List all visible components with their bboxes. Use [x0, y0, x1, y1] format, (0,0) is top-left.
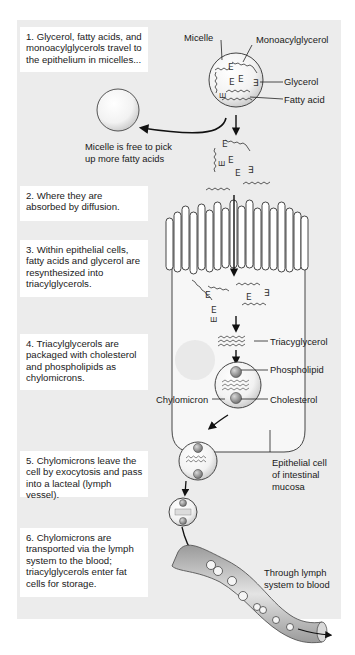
svg-text:ш: ш — [219, 91, 226, 100]
svg-text:E: E — [246, 292, 252, 302]
monoacylglycerol-label: Monoacylglycerol — [256, 34, 328, 45]
step-3-text: 3. Within epithelial cells, fatty acids … — [26, 244, 140, 289]
glycerol-label: Glycerol — [284, 76, 318, 87]
svg-text:E: E — [228, 155, 234, 165]
step-6-box: 6. Chylomicrons are transported via the … — [20, 528, 148, 597]
step-2-box: 2. Where they are absorbed by diffusion. — [20, 186, 148, 221]
step-6-text: 6. Chylomicrons are transported via the … — [26, 532, 134, 589]
step-5-text: 5. Chylomicrons leave the cell by exocyt… — [26, 455, 142, 500]
triacylglycerol-label: Triacyglycerol — [270, 336, 327, 347]
svg-text:∃: ∃ — [253, 78, 259, 88]
epithelial-label-3: mucosa — [272, 481, 305, 492]
lymph-label-2: system to blood — [264, 579, 330, 590]
micelle-free-label-1: Micelle is free to pick — [85, 141, 172, 152]
svg-text:E: E — [238, 74, 244, 84]
microvilli-icon — [166, 200, 308, 274]
svg-text:E: E — [229, 77, 235, 87]
step-4-box: 4. Triacylglycerols are packaged with ch… — [20, 334, 148, 390]
svg-text:ш: ш — [210, 315, 217, 324]
return-arrow-icon — [142, 118, 226, 133]
free-lipids-icon — [206, 140, 270, 190]
lymph-vessel-icon — [172, 545, 330, 643]
epithelial-label-2: of intestinal — [272, 469, 319, 480]
svg-text:E: E — [222, 139, 228, 149]
svg-text:E: E — [235, 168, 241, 178]
chylomicron-label: Chylomicron — [156, 394, 208, 405]
step-1-box: 1. Glycerol, fatty acids, and monoacylgl… — [20, 27, 148, 72]
step-3-box: 3. Within epithelial cells, fatty acids … — [20, 240, 148, 297]
phospholipid-label: Phospholipid — [270, 364, 324, 375]
small-chylomicron-icon — [169, 498, 197, 526]
step-4-text: 4. Triacylglycerols are packaged with ch… — [26, 338, 136, 383]
svg-text:∃: ∃ — [264, 288, 270, 298]
lymph-label-1: Through lymph — [264, 567, 327, 578]
micelle-label: Micelle — [184, 32, 213, 43]
empty-micelle-icon — [97, 89, 139, 131]
svg-text:∃: ∃ — [248, 165, 254, 175]
step-2-text: 2. Where they are absorbed by diffusion. — [26, 190, 120, 212]
exocytosed-chylomicron-icon — [179, 442, 217, 480]
epithelial-label-1: Epithelial cell — [272, 457, 327, 468]
step-5-box: 5. Chylomicrons leave the cell by exocyt… — [20, 451, 148, 497]
svg-text:E: E — [211, 305, 217, 315]
micelle-free-label-2: up more fatty acids — [85, 153, 164, 164]
fatty-acid-label: Fatty acid — [284, 94, 325, 105]
svg-text:ш: ш — [218, 159, 225, 168]
loaded-micelle-icon: E E E ∃ ш — [209, 53, 263, 107]
svg-text:E: E — [205, 290, 211, 300]
cholesterol-label: Cholesterol — [270, 394, 317, 405]
chylomicron-icon — [215, 362, 261, 408]
step-1-text: 1. Glycerol, fatty acids, and monoacylgl… — [26, 31, 142, 65]
svg-text:E: E — [228, 62, 234, 72]
